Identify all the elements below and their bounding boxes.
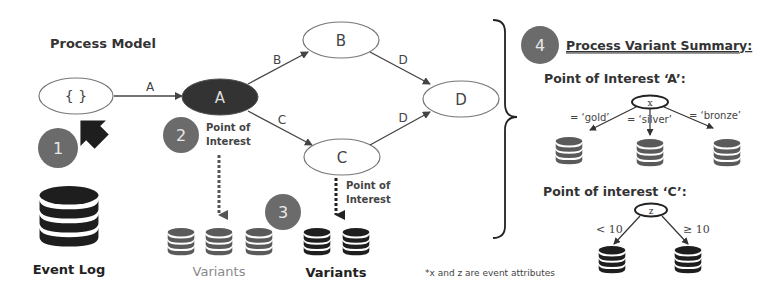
process-variant-diagram: Process Model { } A A B C B C D D D 1	[0, 0, 781, 298]
brace-divider	[493, 20, 517, 238]
poi-c-label-line2: Interest	[346, 194, 391, 205]
attribute-x-label: x	[647, 98, 652, 108]
silver-database-icon	[637, 139, 664, 166]
node-d[interactable]: D	[423, 81, 499, 117]
tree-a: x = ‘gold’ = ‘silver’ = ‘bronze’	[570, 96, 741, 136]
gold-database-icon	[556, 137, 583, 164]
bronze-database-icon	[714, 139, 741, 166]
variant-c-database-icon-2	[343, 228, 370, 255]
branch-bronze-label: = ‘bronze’	[689, 110, 741, 121]
summary-a-databases	[556, 137, 741, 166]
step-2-number: 2	[176, 126, 186, 145]
variant-a-database-icon-3	[246, 228, 273, 255]
node-a[interactable]: A	[182, 79, 258, 115]
step-4-number: 4	[535, 36, 545, 55]
poi-a-label-line2: Interest	[206, 136, 251, 147]
edge-b-d-label: D	[398, 53, 407, 67]
summary-poi-a-title: Point of Interest ‘A’:	[544, 71, 686, 86]
step-3-badge: 3	[265, 194, 301, 230]
edge-start-a-label: A	[146, 80, 155, 94]
step-1-number: 1	[53, 139, 63, 158]
node-start-label: { }	[65, 88, 87, 104]
summary-heading: Process Variant Summary:	[566, 38, 752, 53]
variant-a-database-icon-2	[206, 228, 233, 255]
footnote: *x and z are event attributes	[425, 268, 555, 278]
poi-a-label-line1: Point of	[206, 122, 251, 133]
variants-c-label: Variants	[306, 265, 367, 280]
attribute-z-label: z	[649, 206, 654, 216]
step-4-badge: 4	[521, 26, 559, 64]
node-c-label: C	[337, 149, 347, 167]
node-a-label: A	[215, 89, 226, 107]
node-d-label: D	[455, 91, 467, 109]
branch-lt10-label: < 10	[596, 223, 623, 236]
branch-ge10-label: ≥ 10	[683, 223, 710, 236]
variant-a-database-icon-1	[168, 228, 195, 255]
edge-a-c-label: C	[278, 113, 286, 127]
ge10-database-icon	[675, 246, 702, 273]
variants-a-databases	[168, 228, 273, 255]
event-log-label: Event Log	[33, 262, 106, 277]
step-2-badge: 2	[163, 117, 199, 153]
node-b[interactable]: B	[303, 22, 379, 58]
node-c[interactable]: C	[304, 139, 380, 175]
tree-c: z < 10 ≥ 10	[596, 204, 710, 245]
summary-poi-c-title: Point of interest ‘C’:	[543, 184, 687, 199]
lt10-database-icon	[599, 246, 626, 273]
edge-c-d-label: D	[398, 111, 407, 125]
step-3-number: 3	[278, 203, 288, 222]
branch-silver-label: = ‘silver’	[627, 114, 672, 125]
node-b-label: B	[336, 32, 346, 50]
edge-a-b-label: B	[273, 53, 281, 67]
step-1-badge: 1	[38, 128, 78, 168]
event-log-database-icon	[40, 186, 99, 246]
variant-c-database-icon-1	[304, 228, 331, 255]
poi-c-label-line1: Point of	[346, 180, 391, 191]
branch-gold-label: = ‘gold’	[570, 112, 610, 123]
summary-c-databases	[599, 246, 702, 273]
process-model-title: Process Model	[50, 36, 156, 51]
variants-c-databases	[304, 228, 370, 255]
variants-a-label: Variants	[193, 264, 246, 279]
node-start[interactable]: { }	[39, 78, 113, 114]
